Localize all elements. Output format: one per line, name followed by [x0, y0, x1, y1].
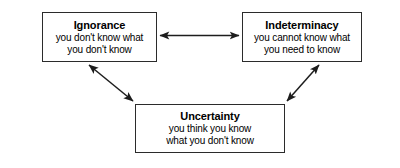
node-uncertainty-title: Uncertainty [180, 110, 239, 123]
node-ignorance: Ignorance you don't know what you don't … [42, 12, 157, 62]
node-uncertainty-desc-line1: you think you know [169, 123, 251, 135]
node-indeterminacy-desc-line2: you need to know [264, 44, 340, 56]
node-indeterminacy-title: Indeterminacy [265, 19, 338, 32]
node-ignorance-desc-line2: you don't know [67, 44, 131, 56]
connector-uncertainty-indeterminacy [287, 65, 319, 101]
node-indeterminacy-desc-line1: you cannot know what [254, 32, 350, 44]
node-ignorance-desc-line1: you don't know what [56, 32, 143, 44]
node-indeterminacy: Indeterminacy you cannot know what you n… [242, 12, 362, 62]
diagram-canvas: Ignorance you don't know what you don't … [0, 0, 400, 168]
connector-ignorance-uncertainty [89, 65, 133, 101]
node-uncertainty: Uncertainty you think you know what you … [135, 104, 285, 153]
node-ignorance-title: Ignorance [74, 19, 126, 32]
node-uncertainty-desc-line2: what you don't know [166, 135, 253, 147]
